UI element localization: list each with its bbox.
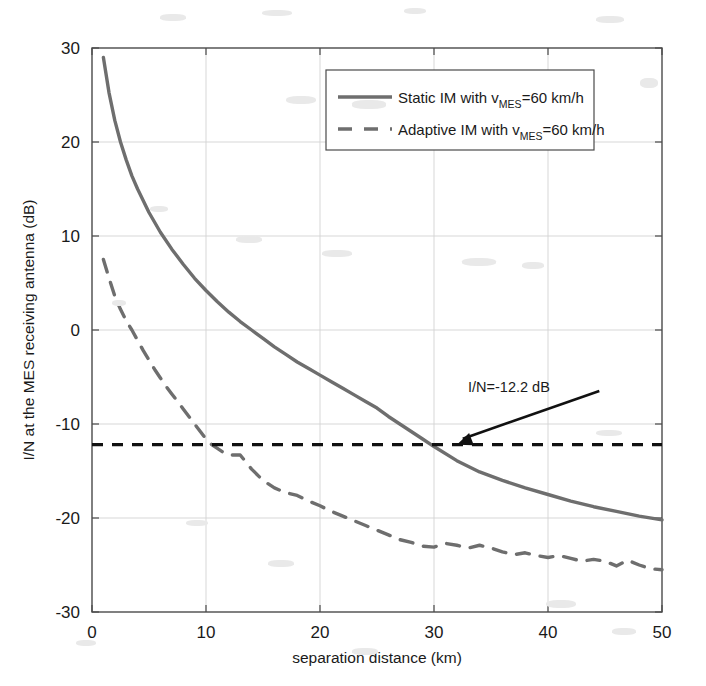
y-tick-label: 30 — [61, 39, 80, 58]
figure-canvas: 01020304050 3020100-10-20-30 I/N=-12.2 d… — [0, 0, 706, 686]
x-tick-label: 40 — [539, 623, 558, 642]
x-tick-label: 50 — [653, 623, 672, 642]
y-axis-title: I/N at the MES receiving antenna (dB) — [20, 199, 37, 460]
legend-static-suffix: =60 km/h — [522, 89, 584, 106]
legend-adaptive-subscript: MES — [520, 130, 543, 142]
x-tick-label: 20 — [311, 623, 330, 642]
x-tick-label: 0 — [87, 623, 96, 642]
x-tick-label: 10 — [197, 623, 216, 642]
y-tick-label: -30 — [55, 603, 80, 622]
y-tick-label: -20 — [55, 509, 80, 528]
chart-plot: 01020304050 3020100-10-20-30 I/N=-12.2 d… — [0, 0, 706, 686]
y-tick-label: 0 — [71, 321, 80, 340]
y-tick-label: 10 — [61, 227, 80, 246]
legend-static-subscript: MES — [499, 98, 522, 110]
y-tick-label: 20 — [61, 133, 80, 152]
legend-box — [326, 70, 594, 150]
legend-adaptive-prefix: Adaptive IM with v — [398, 121, 520, 138]
x-axis-title: separation distance (km) — [292, 649, 462, 666]
legend: Static IM with vMES=60 km/h Adaptive IM … — [326, 70, 605, 150]
legend-static-prefix: Static IM with v — [398, 89, 499, 106]
legend-adaptive-suffix: =60 km/h — [542, 121, 604, 138]
annotation-label: I/N=-12.2 dB — [468, 379, 550, 395]
y-tick-label: -10 — [55, 415, 80, 434]
x-tick-label: 30 — [425, 623, 444, 642]
